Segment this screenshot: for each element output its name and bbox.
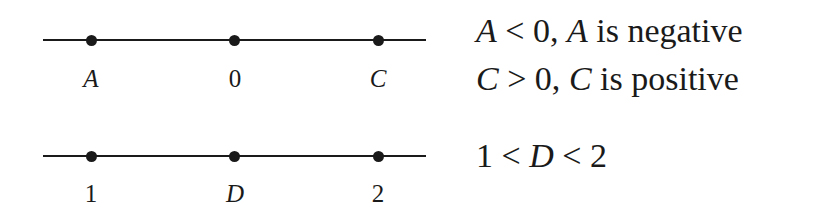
upper-bound: < 2 <box>554 137 607 174</box>
lower-bound: 1 < <box>476 137 529 174</box>
point-label-c: C <box>358 66 398 91</box>
var-a: A <box>476 12 497 49</box>
point-label-a: A <box>71 66 111 91</box>
point-label-d: D <box>215 181 255 206</box>
point-label-one: 1 <box>71 181 111 206</box>
point-dot-c <box>373 35 384 46</box>
relation: > 0, <box>499 60 569 97</box>
statement-d-between: 1 < D < 2 <box>476 139 607 173</box>
var-d: D <box>529 137 554 174</box>
point-dot-zero <box>229 35 240 46</box>
point-dot-one <box>86 151 97 162</box>
point-label-zero: 0 <box>215 66 255 91</box>
statement-c-positive: C > 0, C is positive <box>476 62 739 96</box>
relation: < 0, <box>497 12 567 49</box>
description: is positive <box>592 60 739 97</box>
point-dot-d <box>229 151 240 162</box>
var-c: C <box>569 60 592 97</box>
point-label-two: 2 <box>358 181 398 206</box>
statement-a-negative: A < 0, A is negative <box>476 14 743 48</box>
description: is negative <box>588 12 743 49</box>
point-dot-a <box>86 35 97 46</box>
point-dot-two <box>373 151 384 162</box>
var-c: C <box>476 60 499 97</box>
var-a: A <box>567 12 588 49</box>
